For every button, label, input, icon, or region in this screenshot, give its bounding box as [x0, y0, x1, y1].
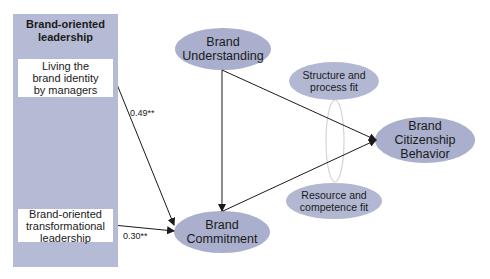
- label-structure-fit: Structure and process fit: [289, 62, 379, 100]
- node-text-line: Behavior: [394, 147, 455, 161]
- label-brand-understanding: Brand Understanding: [175, 28, 271, 70]
- panel-title-line2: leadership: [13, 31, 118, 44]
- panel-title: Brand-oriented leadership: [13, 18, 118, 44]
- node-text-line: Citizenship: [394, 133, 455, 147]
- label-brand-commitment: Brand Commitment: [174, 211, 270, 253]
- node-text-line: Structure and: [302, 69, 365, 81]
- node-text-line: Resource and: [300, 189, 368, 201]
- node-text-line: Understanding: [182, 49, 263, 63]
- coefficient-0-49: 0.49**: [130, 108, 155, 118]
- moderator-ellipse: [326, 100, 344, 182]
- node-text-line: Brand: [187, 218, 258, 232]
- box-transformational-leadership: Brand-oriented transformational leadersh…: [18, 209, 113, 242]
- box-text-line: Brand-oriented: [26, 208, 105, 220]
- coefficient-0-30: 0.30**: [123, 231, 148, 241]
- node-text-line: Brand: [182, 35, 263, 49]
- label-brand-citizenship-behavior: Brand Citizenship Behavior: [375, 117, 475, 163]
- box-text-line: Living the: [32, 60, 98, 72]
- box-text-line: leadership: [26, 232, 105, 244]
- box-text-line: brand identity: [32, 72, 98, 84]
- path-living-brand-to-commitment: [114, 77, 174, 225]
- node-text-line: Commitment: [187, 232, 258, 246]
- box-text-line: transformational: [26, 220, 105, 232]
- box-text-line: by managers: [32, 84, 98, 96]
- panel-title-line1: Brand-oriented: [13, 18, 118, 31]
- node-text-line: process fit: [302, 81, 365, 93]
- label-resource-fit: Resource and competence fit: [286, 183, 382, 219]
- node-text-line: competence fit: [300, 201, 368, 213]
- brand-oriented-leadership-panel: Brand-oriented leadership Living the bra…: [13, 14, 118, 267]
- node-text-line: Brand: [394, 119, 455, 133]
- box-living-brand-identity: Living the brand identity by managers: [18, 59, 113, 97]
